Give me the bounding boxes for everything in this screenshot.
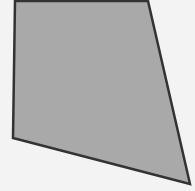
diagram-canvas bbox=[0, 0, 195, 191]
quadrilateral-figure bbox=[0, 0, 195, 191]
quadrilateral-shape bbox=[13, 1, 190, 184]
